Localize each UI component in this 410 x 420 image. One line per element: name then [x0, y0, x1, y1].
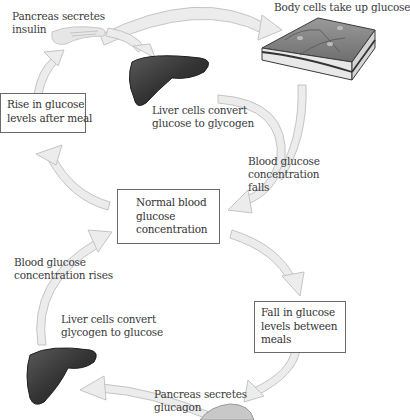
box-line: Normal blood [136, 196, 201, 210]
arrow-normal-to-rise [36, 145, 110, 210]
label-line: Liver cells convert [61, 313, 163, 326]
label-line: concentration rises [14, 269, 113, 282]
label-line: Pancreas secretes [154, 388, 247, 401]
box-line: levels between [261, 320, 339, 334]
label-line: concentration [248, 168, 320, 181]
box-line: Fall in glucose [261, 306, 339, 320]
pancreas-glucagon-label: Pancreas secretes glucagon [154, 388, 247, 414]
arrow-rise-to-pancreas [34, 50, 64, 94]
label-line: Body cells take up glucose [274, 1, 410, 14]
box-line: glucose [136, 210, 201, 224]
liver-icon [27, 348, 96, 404]
label-line: Blood glucose [14, 256, 113, 269]
label-line: insulin [12, 23, 105, 36]
box-line: levels after meal [7, 112, 79, 126]
box-line: concentration [136, 223, 201, 237]
glucose-rises-label: Blood glucose concentration rises [14, 256, 113, 282]
glucose-falls-label: Blood glucose concentration falls [248, 155, 320, 194]
fall-glucose-box: Fall in glucose levels between meals [254, 301, 346, 353]
arrow-normal-to-fall [230, 230, 304, 296]
liver-glycogenesis-label: Liver cells convert glucose to glycogen [152, 104, 254, 130]
rise-glucose-box: Rise in glucose levels after meal [0, 93, 86, 133]
box-line: meals [261, 333, 339, 347]
label-line: Pancreas secretes [12, 10, 105, 23]
label-line: Blood glucose [248, 155, 320, 168]
liver-icon [129, 56, 208, 106]
label-line: falls [248, 181, 320, 194]
box-line: Rise in glucose [7, 98, 79, 112]
liver-glycogenolysis-label: Liver cells convert glycogen to glucose [61, 313, 163, 339]
label-line: Liver cells convert [152, 104, 254, 117]
normal-glucose-box: Normal blood glucose concentration [117, 189, 220, 244]
label-line: glucose to glycogen [152, 117, 254, 130]
arrow-fall-to-pancreas [244, 350, 300, 402]
body-cells-label: Body cells take up glucose [274, 1, 410, 14]
label-line: glycogen to glucose [61, 326, 163, 339]
label-line: glucagon [154, 401, 247, 414]
pancreas-insulin-label: Pancreas secretes insulin [12, 10, 105, 36]
